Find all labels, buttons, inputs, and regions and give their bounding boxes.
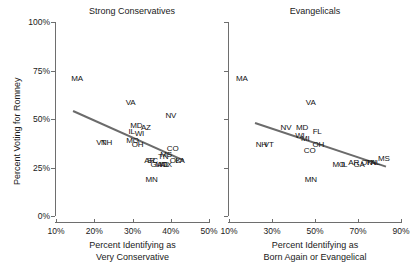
y-tick-0-3 xyxy=(51,71,55,72)
x-tick-1-0 xyxy=(229,219,230,223)
y-tick-1-2 xyxy=(224,119,228,120)
y-tick-label-3: 75% xyxy=(14,66,50,76)
x-axis-title-1-line1: Percent Identifying as xyxy=(230,240,400,250)
x-tick-1-4 xyxy=(401,219,402,223)
data-point-label: AL xyxy=(160,159,169,168)
data-point-label: MN xyxy=(146,175,158,184)
y-tick-label-0: 0% xyxy=(14,211,50,221)
y-tick-0-2 xyxy=(51,119,55,120)
y-tick-0-0 xyxy=(51,216,55,217)
data-point-label: LA xyxy=(175,155,184,164)
x-tick-label-1-2: 50% xyxy=(297,226,333,236)
y-tick-0-4 xyxy=(51,22,55,23)
data-point-label: VT xyxy=(264,140,274,149)
y-tick-label-1: 25% xyxy=(14,163,50,173)
x-tick-label-0-1: 20% xyxy=(76,226,112,236)
x-tick-label-1-3: 70% xyxy=(340,226,376,236)
plot-area-1: MAVANVMDFLWIMIOHCONHVTMNMOILARGAOKTNALMS xyxy=(229,22,401,217)
figure-root: Percent Voting for RomneyStrong Conserva… xyxy=(0,0,411,280)
x-tick-0-1 xyxy=(94,219,95,223)
y-tick-1-0 xyxy=(224,216,228,217)
data-point-label: NH xyxy=(101,138,112,147)
x-tick-0-2 xyxy=(133,219,134,223)
data-point-label: MI xyxy=(301,134,310,143)
data-point-label: MA xyxy=(71,74,83,83)
x-tick-1-1 xyxy=(272,219,273,223)
x-axis-title-0-line2: Very Conservative xyxy=(48,252,218,262)
x-tick-0-3 xyxy=(171,219,172,223)
x-tick-label-0-3: 40% xyxy=(153,226,189,236)
y-tick-0-1 xyxy=(51,168,55,169)
panel-title-0: Strong Conservatives xyxy=(62,6,202,16)
y-tick-label-4: 100% xyxy=(14,17,50,27)
data-point-label: NV xyxy=(165,111,176,120)
plot-area-0: MAVAMDAZILWIMOOHVTNHNVCOTNMSSCARGAMOOKLA… xyxy=(56,22,209,217)
x-tick-label-1-4: 90% xyxy=(383,226,411,236)
data-point-label: NV xyxy=(281,122,292,131)
data-point-label: OH xyxy=(132,140,144,149)
x-tick-label-1-0: 10% xyxy=(211,226,247,236)
x-tick-label-0-0: 10% xyxy=(38,226,74,236)
y-tick-1-3 xyxy=(224,71,228,72)
data-point-label: MN xyxy=(305,175,317,184)
data-point-label: IL xyxy=(341,159,347,168)
x-tick-1-3 xyxy=(358,219,359,223)
x-tick-0-4 xyxy=(209,219,210,223)
x-axis-title-1-line2: Born Again or Evangelical xyxy=(230,252,400,262)
data-point-label: MS xyxy=(378,153,390,162)
x-axis-title-0-line1: Percent Identifying as xyxy=(48,240,218,250)
data-point-label: MA xyxy=(236,74,248,83)
panel-title-1: Evangelicals xyxy=(245,6,385,16)
y-tick-label-2: 50% xyxy=(14,114,50,124)
data-point-label: FL xyxy=(313,126,322,135)
data-point-label: VA xyxy=(126,97,136,106)
x-tick-1-2 xyxy=(315,219,316,223)
data-point-label: CO xyxy=(304,146,316,155)
y-tick-1-4 xyxy=(224,22,228,23)
x-tick-0-0 xyxy=(56,219,57,223)
data-point-label: VA xyxy=(306,97,316,106)
x-tick-label-1-1: 30% xyxy=(254,226,290,236)
y-tick-1-1 xyxy=(224,168,228,169)
x-tick-label-0-2: 30% xyxy=(115,226,151,236)
